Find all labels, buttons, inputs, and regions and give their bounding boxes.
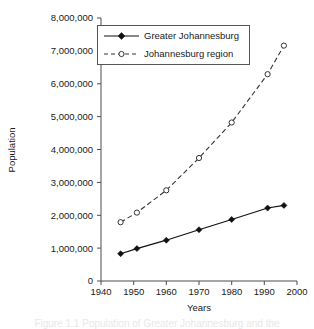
legend-label-0: Greater Johannesburg	[144, 30, 239, 41]
x-tick-label-1980: 1980	[221, 286, 242, 297]
population-line-chart: 0 1,000,000 2,000,000 3,000,000 4,000,00…	[0, 0, 314, 329]
x-tick-label-1960: 1960	[156, 286, 177, 297]
x-tick-label-2000: 2000	[286, 286, 307, 297]
y-tick-label-5000000: 5,000,000	[51, 111, 93, 122]
figure-container: 0 1,000,000 2,000,000 3,000,000 4,000,00…	[0, 0, 314, 329]
data-point	[265, 72, 270, 77]
y-tick-label-0: 0	[88, 275, 93, 286]
legend-label-1: Johannesburg region	[144, 48, 233, 59]
data-point	[229, 120, 234, 125]
legend-open-circle-icon	[119, 51, 124, 56]
x-tick-label-1940: 1940	[90, 286, 111, 297]
data-point	[196, 155, 201, 160]
data-point	[281, 43, 286, 48]
y-axis-title: Population	[6, 128, 17, 173]
x-tick-label-1990: 1990	[254, 286, 275, 297]
chart-legend: Greater Johannesburg Johannesburg region	[98, 26, 250, 65]
y-tick-label-1000000: 1,000,000	[51, 243, 93, 254]
data-point	[164, 188, 169, 193]
x-tick-label-1970: 1970	[188, 286, 209, 297]
y-tick-label-8000000: 8,000,000	[51, 12, 93, 23]
y-tick-label-6000000: 6,000,000	[51, 78, 93, 89]
figure-caption: Figure 1.1 Population of Greater Johanne…	[34, 318, 280, 329]
y-tick-label-4000000: 4,000,000	[51, 144, 93, 155]
y-tick-label-7000000: 7,000,000	[51, 45, 93, 56]
data-point	[134, 210, 139, 215]
y-tick-label-3000000: 3,000,000	[51, 177, 93, 188]
y-tick-label-2000000: 2,000,000	[51, 210, 93, 221]
x-axis-title: Years	[187, 302, 211, 313]
data-point	[118, 220, 123, 225]
x-tick-label-1950: 1950	[123, 286, 144, 297]
